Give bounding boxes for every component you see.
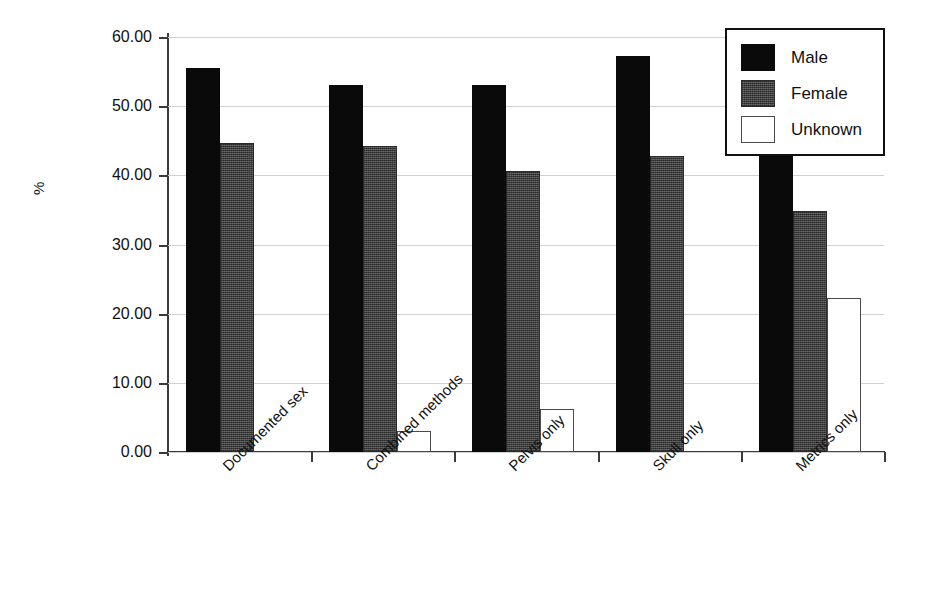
bar-male	[759, 155, 793, 452]
bar-male	[616, 56, 650, 452]
y-axis-tick	[159, 245, 168, 247]
x-axis-tick	[884, 452, 886, 462]
y-axis-tick-label: 20.00	[112, 305, 152, 323]
y-axis-tick	[159, 314, 168, 316]
bar-male	[186, 68, 220, 452]
y-axis-tick	[159, 37, 168, 39]
y-axis-tick-label: 30.00	[112, 236, 152, 254]
bar-female	[650, 156, 684, 452]
legend-item-male: Male	[741, 39, 883, 75]
y-axis-tick	[159, 106, 168, 108]
y-axis-tick-label: 50.00	[112, 97, 152, 115]
chart-legend[interactable]: Male Female Unknown	[725, 28, 885, 156]
y-axis-tick-label: 10.00	[112, 374, 152, 392]
y-axis-tick	[159, 383, 168, 385]
legend-item-female: Female	[741, 75, 883, 111]
y-axis-tick-label: 40.00	[112, 166, 152, 184]
bar-female	[506, 171, 540, 452]
y-axis-tick-label: 60.00	[112, 28, 152, 46]
x-axis-tick	[311, 452, 313, 462]
legend-label-female: Female	[791, 85, 848, 102]
legend-label-unknown: Unknown	[791, 121, 862, 138]
legend-swatch-unknown	[741, 116, 775, 143]
bar-chart: % 0.0010.0020.0030.0040.0050.0060.00 Doc…	[0, 0, 928, 615]
bar-female	[220, 143, 254, 452]
bar-male	[472, 85, 506, 452]
bar-female	[363, 146, 397, 452]
y-axis-tick	[159, 175, 168, 177]
y-axis-tick	[159, 452, 168, 454]
legend-swatch-male	[741, 44, 775, 71]
y-axis-tick-label: 0.00	[121, 443, 152, 461]
x-axis-tick	[598, 452, 600, 462]
bar-male	[329, 85, 363, 452]
y-axis-title: %	[30, 182, 47, 195]
legend-item-unknown: Unknown	[741, 111, 883, 147]
x-axis-tick	[741, 452, 743, 462]
bar-female	[793, 211, 827, 452]
legend-swatch-female	[741, 80, 775, 107]
x-axis-tick	[454, 452, 456, 462]
legend-label-male: Male	[791, 49, 828, 66]
